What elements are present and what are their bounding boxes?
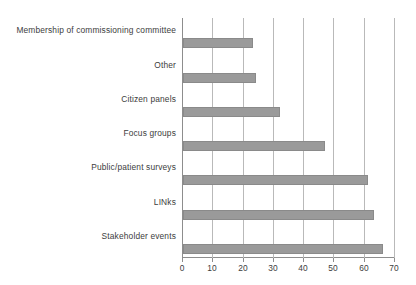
x-tick-mark-0: [182, 258, 183, 262]
bar-fill: [183, 210, 374, 220]
gridline-30: [273, 18, 274, 258]
plot-area: [182, 18, 394, 258]
gridline-10: [212, 18, 213, 258]
gridline-60: [364, 18, 365, 258]
bar: [183, 210, 374, 220]
bar-fill: [183, 38, 253, 48]
x-tick-label-0: 0: [170, 263, 194, 273]
bar: [183, 141, 325, 151]
x-tick-mark-20: [243, 258, 244, 262]
bar-fill: [183, 175, 368, 185]
x-tick-label-20: 20: [231, 263, 255, 273]
x-tick-label-10: 10: [200, 263, 224, 273]
y-axis-line: [182, 18, 183, 258]
bar: [183, 73, 256, 83]
category-label: Stakeholder events: [0, 231, 176, 241]
gridline-20: [243, 18, 244, 258]
bar-fill: [183, 244, 383, 254]
category-label: Other: [0, 60, 176, 70]
category-label: Public/patient surveys: [0, 162, 176, 172]
x-tick-mark-70: [394, 258, 395, 262]
bar-fill: [183, 107, 280, 117]
x-axis-line: [182, 257, 394, 258]
x-tick-mark-30: [273, 258, 274, 262]
x-tick-mark-40: [303, 258, 304, 262]
bar-chart: Membership of commissioning committeeOth…: [0, 0, 416, 285]
x-tick-label-30: 30: [261, 263, 285, 273]
x-tick-label-50: 50: [321, 263, 345, 273]
x-tick-mark-50: [333, 258, 334, 262]
x-tick-mark-60: [364, 258, 365, 262]
category-label: Membership of commissioning committee: [0, 25, 176, 35]
x-tick-label-70: 70: [382, 263, 406, 273]
gridline-40: [303, 18, 304, 258]
category-label: Focus groups: [0, 128, 176, 138]
category-label: Citizen panels: [0, 94, 176, 104]
bar-fill: [183, 141, 325, 151]
x-tick-mark-10: [212, 258, 213, 262]
bar: [183, 38, 253, 48]
bar: [183, 244, 383, 254]
category-label: LINks: [0, 197, 176, 207]
x-tick-label-40: 40: [291, 263, 315, 273]
bar-fill: [183, 73, 256, 83]
x-tick-label-60: 60: [352, 263, 376, 273]
gridline-70: [394, 18, 395, 258]
bar: [183, 107, 280, 117]
gridline-50: [333, 18, 334, 258]
bar: [183, 175, 368, 185]
